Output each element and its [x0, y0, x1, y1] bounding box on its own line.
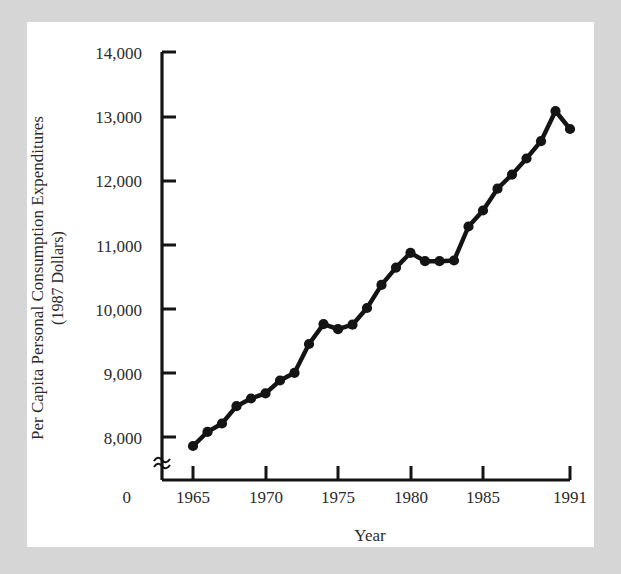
data-point: [246, 393, 256, 403]
data-point: [217, 418, 227, 428]
data-point: [434, 256, 444, 266]
data-point: [289, 368, 299, 378]
data-point: [463, 221, 473, 231]
data-point: [202, 427, 212, 437]
data-point: [478, 205, 488, 215]
data-point: [449, 255, 459, 265]
data-point: [304, 339, 314, 349]
data-point: [347, 320, 357, 330]
data-point: [536, 136, 546, 146]
x-axis-ticks: [193, 466, 570, 480]
data-point: [362, 303, 372, 313]
data-point: [550, 106, 560, 116]
data-point: [275, 375, 285, 385]
data-point: [260, 388, 270, 398]
data-point: [376, 280, 386, 290]
data-point: [420, 256, 430, 266]
axis-lines: [162, 52, 570, 480]
data-point: [521, 153, 531, 163]
y-axis-ticks: [162, 52, 176, 437]
data-point: [318, 319, 328, 329]
data-point: [492, 184, 502, 194]
data-point: [188, 441, 198, 451]
data-point: [507, 170, 517, 180]
data-point: [391, 263, 401, 273]
data-point: [405, 248, 415, 258]
chart-svg: [0, 0, 621, 574]
data-point: [231, 401, 241, 411]
data-point-markers: [188, 106, 575, 451]
data-point: [565, 124, 575, 134]
data-point: [333, 324, 343, 334]
chart-plot-area: Per Capita Personal Consumption Expendit…: [0, 0, 621, 574]
